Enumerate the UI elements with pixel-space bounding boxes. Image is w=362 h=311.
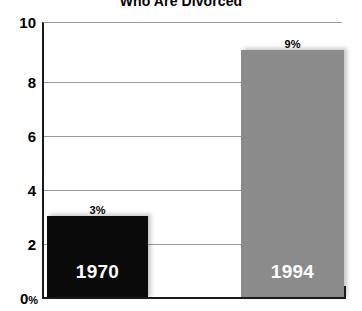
- bar-1994-value-label: 9%: [241, 38, 344, 50]
- y-axis-label-2: 2: [28, 237, 36, 252]
- bar-1970-category-label: 1970: [47, 261, 148, 283]
- y-axis-label-8: 8: [28, 75, 36, 90]
- bar-1994-category-label: 1994: [241, 261, 344, 283]
- plot-frame-right-tick: [344, 286, 346, 299]
- y-axis-label-4: 4: [28, 183, 36, 198]
- x-axis-line: [42, 297, 346, 299]
- y-axis-label-0: 0%: [20, 291, 38, 306]
- bar-chart: Who Are Divorced 10 8 6 4 2 0% 1970 1994…: [0, 0, 362, 311]
- y-axis-label-6: 6: [28, 129, 36, 144]
- chart-title: Who Are Divorced: [0, 0, 362, 9]
- plot-area: 1970 1994 3% 9%: [42, 22, 342, 299]
- bar-1970[interactable]: 1970: [47, 216, 148, 299]
- y-axis-label-10: 10: [19, 15, 36, 30]
- bar-1970-value-label: 3%: [47, 204, 148, 216]
- bar-1994[interactable]: 1994: [241, 50, 344, 299]
